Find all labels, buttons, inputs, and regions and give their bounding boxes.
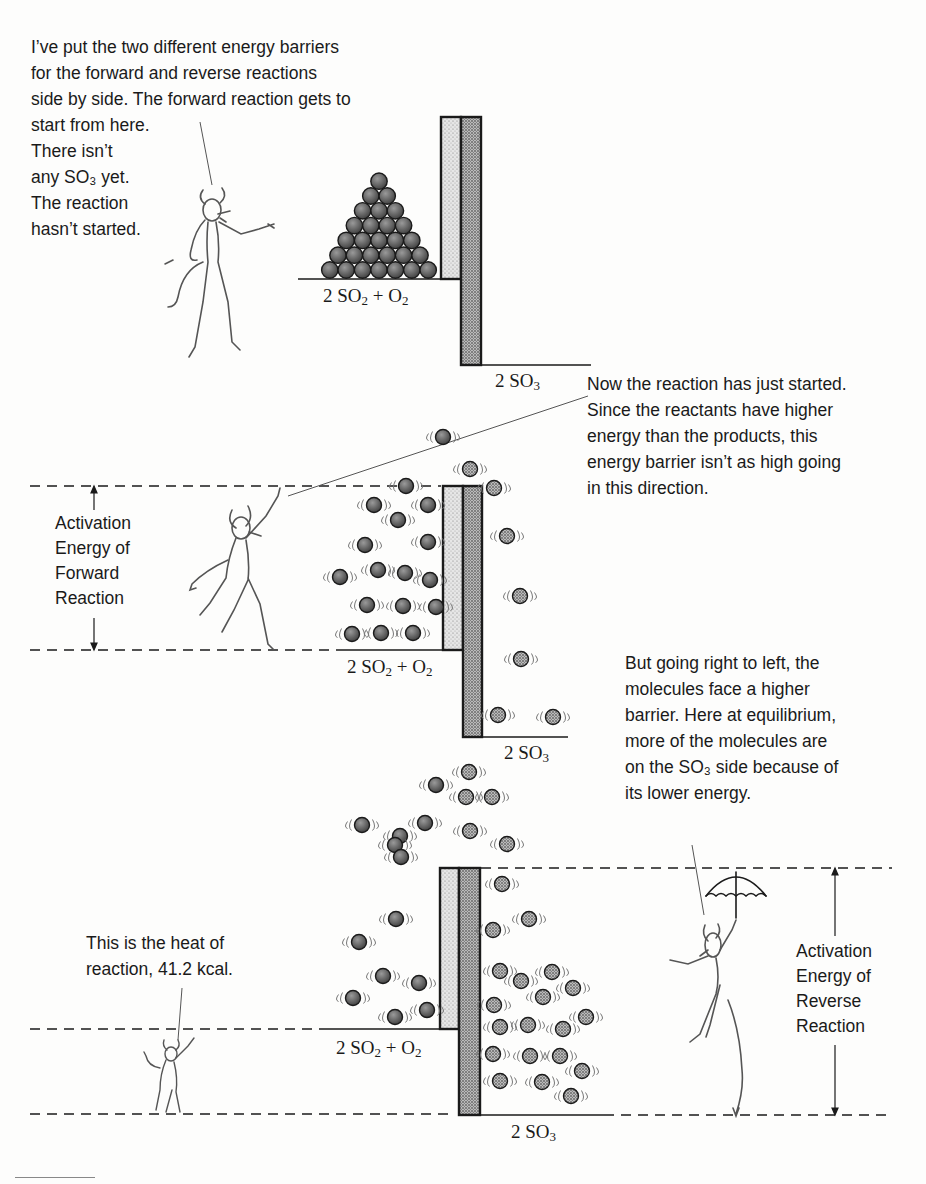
caption-line: The reaction [31, 190, 351, 216]
pointer-line [692, 845, 704, 915]
reactant-molecule [367, 498, 382, 513]
products-label: 2 SO3 [504, 742, 549, 766]
so3-molecule [495, 877, 510, 892]
reactant-molecule [371, 563, 386, 578]
reactant-molecule [371, 173, 387, 189]
reactant-molecule [412, 247, 428, 263]
caption-line: in this direction. [587, 475, 847, 501]
reactant-molecule [404, 262, 420, 278]
label-line: Reaction [796, 1014, 872, 1039]
so3-molecule [493, 964, 508, 979]
reactant-molecule [374, 626, 389, 641]
reactant-molecule [395, 247, 411, 263]
forward-barrier-column [443, 486, 463, 650]
so3-molecule [487, 481, 502, 496]
reactant-molecule [346, 247, 362, 263]
so3-molecule [566, 981, 581, 996]
reactant-molecule [355, 818, 370, 833]
so3-molecule [545, 965, 560, 980]
label-line: Energy of [796, 964, 872, 989]
label-line: Reverse [796, 989, 872, 1014]
so3-molecule [486, 923, 501, 938]
reactant-molecule [371, 262, 387, 278]
devil-with-umbrella-icon [670, 872, 766, 1116]
reactant-molecule [379, 188, 395, 204]
so3-molecule [463, 824, 478, 839]
forward-activation-energy-label: Activation Energy of Forward Reaction [55, 511, 131, 611]
so3-molecule [575, 1064, 590, 1079]
reactants-label: 2 SO2 + O2 [347, 656, 432, 680]
forward-barrier-column [440, 868, 459, 1029]
caption-line: I’ve put the two different energy barrie… [31, 34, 351, 60]
caption-line: for the forward and reverse reactions [31, 60, 351, 86]
reactant-molecule [420, 1003, 435, 1018]
so3-molecule [491, 708, 506, 723]
reactant-molecule [387, 203, 403, 219]
so3-molecule [521, 1018, 536, 1033]
reactant-molecule [429, 778, 444, 793]
reactant-molecule [379, 217, 395, 233]
panel-3-caption: But going right to left, the molecules f… [625, 650, 838, 806]
reactant-molecule [363, 247, 379, 263]
reactant-molecule [376, 969, 391, 984]
so3-molecule [522, 912, 537, 927]
small-devil-figure-icon [144, 1038, 194, 1112]
pointer-line [178, 988, 182, 1040]
reactant-molecule [346, 991, 361, 1006]
reactant-molecule [354, 232, 370, 248]
reactant-molecule [333, 570, 348, 585]
so3-molecule [500, 529, 515, 544]
reactant-molecule [354, 203, 370, 219]
caption-line: hasn’t started. [31, 216, 351, 242]
reactant-molecule [338, 262, 354, 278]
caption-line: molecules face a higher [625, 676, 838, 702]
reactants-label: 2 SO2 + O2 [336, 1037, 421, 1061]
so3-molecule [514, 974, 529, 989]
reverse-barrier-column [459, 868, 480, 1115]
reactant-molecule [391, 513, 406, 528]
reactant-molecule [429, 600, 444, 615]
caption-line: energy than the products, this [587, 423, 847, 449]
reactant-molecule [412, 976, 427, 991]
reactant-molecule [418, 816, 433, 831]
so3-molecule [459, 790, 474, 805]
label-line: Reaction [55, 586, 131, 611]
reactant-molecule [322, 262, 338, 278]
so3-molecule [513, 589, 528, 604]
label-line: Activation [55, 511, 131, 536]
reactant-molecule [363, 217, 379, 233]
caption-line: any SO₃ yet. [31, 164, 351, 190]
reactant-molecule [387, 262, 403, 278]
label-line: Forward [55, 561, 131, 586]
reactant-molecule [371, 232, 387, 248]
reactant-molecule [360, 598, 375, 613]
so3-molecule [514, 652, 529, 667]
heat-of-reaction-caption: This is the heat of reaction, 41.2 kcal. [86, 930, 233, 982]
caption-line: barrier. Here at equilibrium, [625, 702, 838, 728]
caption-line: more of the molecules are [625, 728, 838, 754]
label-line: Energy of [55, 536, 131, 561]
so3-molecule [523, 1049, 538, 1064]
caption-line: on the SO₃ side because of [625, 754, 838, 780]
reactant-molecule [396, 599, 411, 614]
so3-molecule [462, 765, 477, 780]
reverse-activation-energy-label: Activation Energy of Reverse Reaction [796, 939, 872, 1039]
caption-line: Now the reaction has just started. [587, 371, 847, 397]
label-line: Activation [796, 939, 872, 964]
reactant-molecule [404, 232, 420, 248]
reactant-molecule [388, 1010, 403, 1025]
reactant-molecule [354, 262, 370, 278]
so3-molecule [546, 710, 561, 725]
so3-molecule [500, 837, 515, 852]
reactant-molecule [363, 188, 379, 204]
so3-molecule [556, 1022, 571, 1037]
reactant-molecule [330, 247, 346, 263]
reactant-molecule [389, 912, 404, 927]
so3-molecule [493, 1020, 508, 1035]
so3-molecule [579, 1010, 594, 1025]
so3-molecule [487, 998, 502, 1013]
so3-molecule [536, 990, 551, 1005]
reactant-molecule [394, 850, 409, 865]
so3-molecule [486, 1047, 501, 1062]
panel-2-caption: Now the reaction has just started. Since… [587, 371, 847, 501]
